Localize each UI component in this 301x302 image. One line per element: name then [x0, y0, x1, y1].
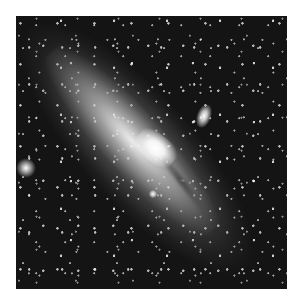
- galaxy-photo: [16, 16, 287, 289]
- bright-star-left: [16, 158, 36, 178]
- bright-star-center: [149, 190, 157, 198]
